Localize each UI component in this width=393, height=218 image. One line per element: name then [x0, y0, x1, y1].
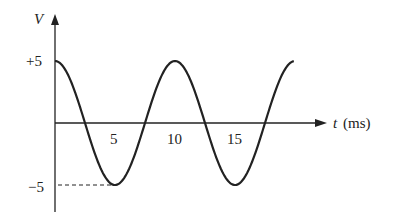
y-axis-label: V — [34, 11, 45, 27]
t-axis-arrow-icon — [315, 119, 327, 127]
voltage-chart: V +5 −5 5 10 15 t (ms) — [0, 0, 393, 218]
x-axis-unit: (ms) — [343, 115, 371, 132]
y-tick-minus5: −5 — [28, 179, 44, 195]
x-axis-var: t — [333, 115, 338, 131]
v-axis-arrow-icon — [51, 14, 59, 25]
x-tick-10: 10 — [167, 131, 182, 147]
x-tick-5: 5 — [110, 131, 118, 147]
y-tick-plus5: +5 — [26, 53, 42, 69]
x-tick-15: 15 — [227, 131, 242, 147]
